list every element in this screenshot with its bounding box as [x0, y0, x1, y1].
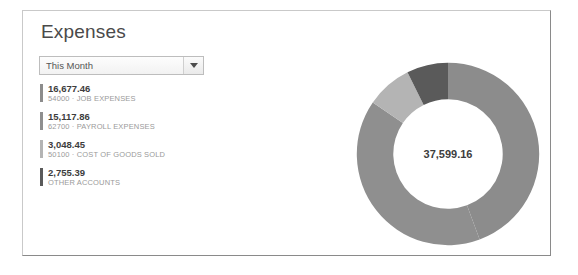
legend-color-swatch — [40, 112, 43, 130]
expenses-panel: Expenses This Month 16,677.46 54000 · JO… — [22, 10, 551, 256]
legend-account-label: 62700 · PAYROLL EXPENSES — [48, 122, 220, 131]
legend-amount: 16,677.46 — [48, 83, 220, 94]
chevron-down-icon — [190, 63, 198, 68]
donut-svg — [353, 59, 543, 249]
legend-account-label: 50100 · COST OF GOODS SOLD — [48, 150, 220, 159]
period-filter-arrow-button[interactable] — [183, 57, 203, 74]
legend-amount: 2,755.39 — [48, 167, 220, 178]
donut-slice[interactable] — [357, 102, 480, 245]
legend-color-swatch — [40, 168, 43, 186]
expenses-donut-chart[interactable]: 37,599.16 — [353, 59, 543, 249]
legend-account-label: OTHER ACCOUNTS — [48, 178, 220, 187]
page-title: Expenses — [41, 21, 126, 43]
legend-amount: 15,117.86 — [48, 111, 220, 122]
expense-legend: 16,677.46 54000 · JOB EXPENSES 15,117.86… — [40, 83, 220, 195]
period-filter-value: This Month — [40, 57, 183, 74]
list-item[interactable]: 15,117.86 62700 · PAYROLL EXPENSES — [40, 111, 220, 131]
list-item[interactable]: 2,755.39 OTHER ACCOUNTS — [40, 167, 220, 187]
legend-color-swatch — [40, 84, 43, 102]
legend-amount: 3,048.45 — [48, 139, 220, 150]
donut-slices — [357, 63, 539, 245]
list-item[interactable]: 16,677.46 54000 · JOB EXPENSES — [40, 83, 220, 103]
list-item[interactable]: 3,048.45 50100 · COST OF GOODS SOLD — [40, 139, 220, 159]
period-filter-select[interactable]: This Month — [39, 56, 204, 75]
legend-account-label: 54000 · JOB EXPENSES — [48, 94, 220, 103]
legend-color-swatch — [40, 140, 43, 158]
